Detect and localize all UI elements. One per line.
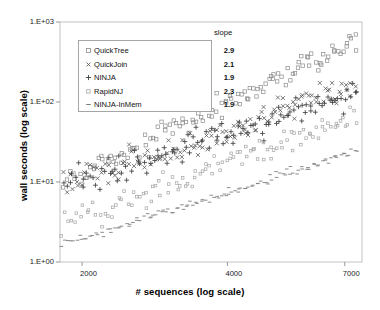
legend-item[interactable]: NINJA-InMem xyxy=(83,98,212,112)
legend-item-label: QuickTree xyxy=(94,46,129,55)
x-tick-label: 4000 xyxy=(225,269,242,278)
legend-slope-value: 1.9 xyxy=(206,71,252,85)
legend-item-label: NINJA xyxy=(94,73,116,82)
legend-item[interactable]: QuickTree xyxy=(83,44,212,58)
legend-item-label: NINJA-InMem xyxy=(94,100,142,109)
legend-slope-value: 2.9 xyxy=(206,44,252,58)
y-tick-label: 1.E+02 xyxy=(10,97,54,106)
legend-slope-column: 2.92.11.92.31.9 xyxy=(206,40,252,112)
x-tick-label: 2000 xyxy=(80,269,97,278)
legend-item[interactable]: RapidNJ xyxy=(83,85,212,99)
y-tick-label: 1.E+03 xyxy=(10,17,54,26)
legend-slope-header: slope xyxy=(214,28,232,37)
x-axis-title: # sequences (log scale) xyxy=(0,286,380,297)
legend-slope-value: 2.3 xyxy=(206,85,252,99)
y-tick-label: 1.E+00 xyxy=(10,257,54,266)
legend-item[interactable]: QuickJoin xyxy=(83,58,212,72)
legend-item[interactable]: NINJA xyxy=(83,71,212,85)
dash-marker-icon xyxy=(83,101,94,108)
square-marker-icon xyxy=(83,47,94,54)
legend-rows: QuickTreeQuickJoinNINJARapidNJNINJA-InMe… xyxy=(78,40,212,112)
chart-figure: wall seconds (log scale) # sequences (lo… xyxy=(0,0,380,310)
legend-slope-value: 1.9 xyxy=(206,98,252,112)
x-marker-icon xyxy=(83,61,94,68)
square-small-marker-icon xyxy=(83,88,94,95)
legend-item-label: RapidNJ xyxy=(94,87,123,96)
legend-slope-value: 2.1 xyxy=(206,58,252,72)
x-tick-label: 7000 xyxy=(343,269,360,278)
plus-marker-icon xyxy=(83,74,94,81)
y-tick-label: 1.E+01 xyxy=(10,177,54,186)
legend-item-label: QuickJoin xyxy=(94,60,127,69)
